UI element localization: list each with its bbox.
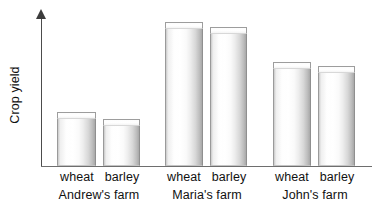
x-tick-label-wheat-0: wheat — [57, 170, 97, 184]
x-tick-label-barley-5: barley — [317, 170, 357, 184]
crop-yield-bar-chart: Crop yield wheatbarleywheatbarleywheatba… — [0, 0, 387, 219]
bar-maria-wheat — [165, 22, 203, 166]
x-tick-label-wheat-4: wheat — [272, 170, 312, 184]
bar-andrew-barley — [103, 119, 140, 166]
x-tick-label-barley-3: barley — [209, 170, 249, 184]
x-tick-label-wheat-2: wheat — [164, 170, 204, 184]
bar-maria-barley — [210, 27, 247, 166]
bar-andrew-wheat — [57, 112, 96, 166]
bar-john-wheat — [273, 62, 311, 166]
x-axis-line — [41, 166, 372, 167]
x-group-label-2: John's farm — [260, 188, 370, 202]
x-group-label-0: Andrew's farm — [44, 188, 154, 202]
bar-john-barley — [318, 66, 355, 166]
x-tick-label-barley-1: barley — [102, 170, 142, 184]
plot-area — [0, 0, 387, 166]
x-group-label-1: Maria's farm — [152, 188, 262, 202]
